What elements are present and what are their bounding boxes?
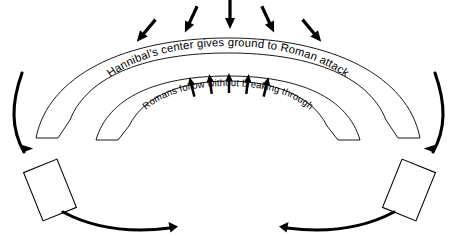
right-descending-arrow xyxy=(424,73,443,155)
bottom-right-converging-arrow xyxy=(279,212,394,233)
battle-diagram-canvas: Hannibal's center gives ground to Roman … xyxy=(0,0,457,236)
bottom-left-converging-arrow xyxy=(63,212,178,233)
battle-diagram: Hannibal's center gives ground to Roman … xyxy=(0,0,457,236)
attack-arrow-1 xyxy=(133,16,159,45)
attack-arrow-2 xyxy=(180,4,201,35)
attack-arrow-3 xyxy=(225,0,235,29)
left-flank-unit xyxy=(24,159,77,221)
right-flank-unit xyxy=(383,159,436,221)
attack-arrow-5 xyxy=(299,16,325,45)
outer-arc-label: Hannibal's center gives ground to Roman … xyxy=(105,36,352,79)
left-descending-arrow xyxy=(14,73,33,155)
attack-arrow-4 xyxy=(257,4,278,35)
